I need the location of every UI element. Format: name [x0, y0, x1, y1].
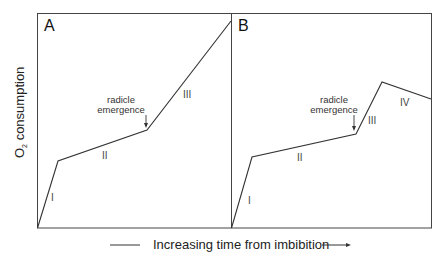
panel-b-letter: B	[238, 17, 249, 34]
phase-label: I	[248, 195, 251, 206]
panel-a-curve	[38, 21, 232, 228]
panel-a: A I II III radicle emergence	[38, 17, 232, 228]
phase-label: IV	[400, 97, 410, 108]
phase-label: I	[51, 192, 54, 203]
annotation-emergence: emergence	[310, 104, 358, 115]
phase-label: II	[102, 150, 108, 161]
phase-label: III	[368, 115, 376, 126]
panel-a-letter: A	[44, 17, 55, 34]
x-axis-label: Increasing time from imbibition	[153, 237, 329, 252]
phase-label: III	[183, 89, 191, 100]
arrow-down-icon	[352, 115, 356, 131]
figure: A I II III radicle emergence B I II III …	[0, 0, 442, 261]
phase-label: II	[297, 152, 303, 163]
panel-b: B I II III IV radicle emergence	[232, 17, 432, 228]
arrow-down-icon	[144, 115, 148, 128]
annotation-emergence: emergence	[97, 104, 145, 115]
y-axis-label: O2 consumption	[12, 67, 28, 158]
